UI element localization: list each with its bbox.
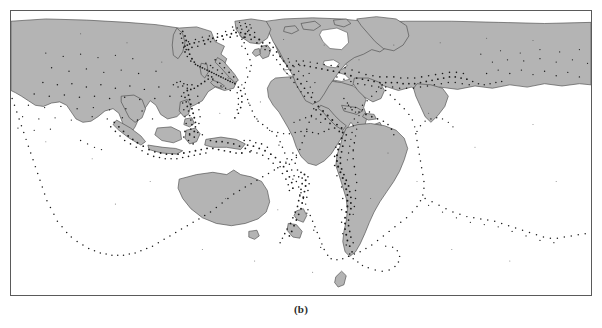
world-map-frame	[10, 10, 592, 296]
figure-container: (b)	[0, 0, 602, 328]
world-map-svg	[11, 11, 591, 295]
figure-caption: (b)	[0, 303, 602, 315]
